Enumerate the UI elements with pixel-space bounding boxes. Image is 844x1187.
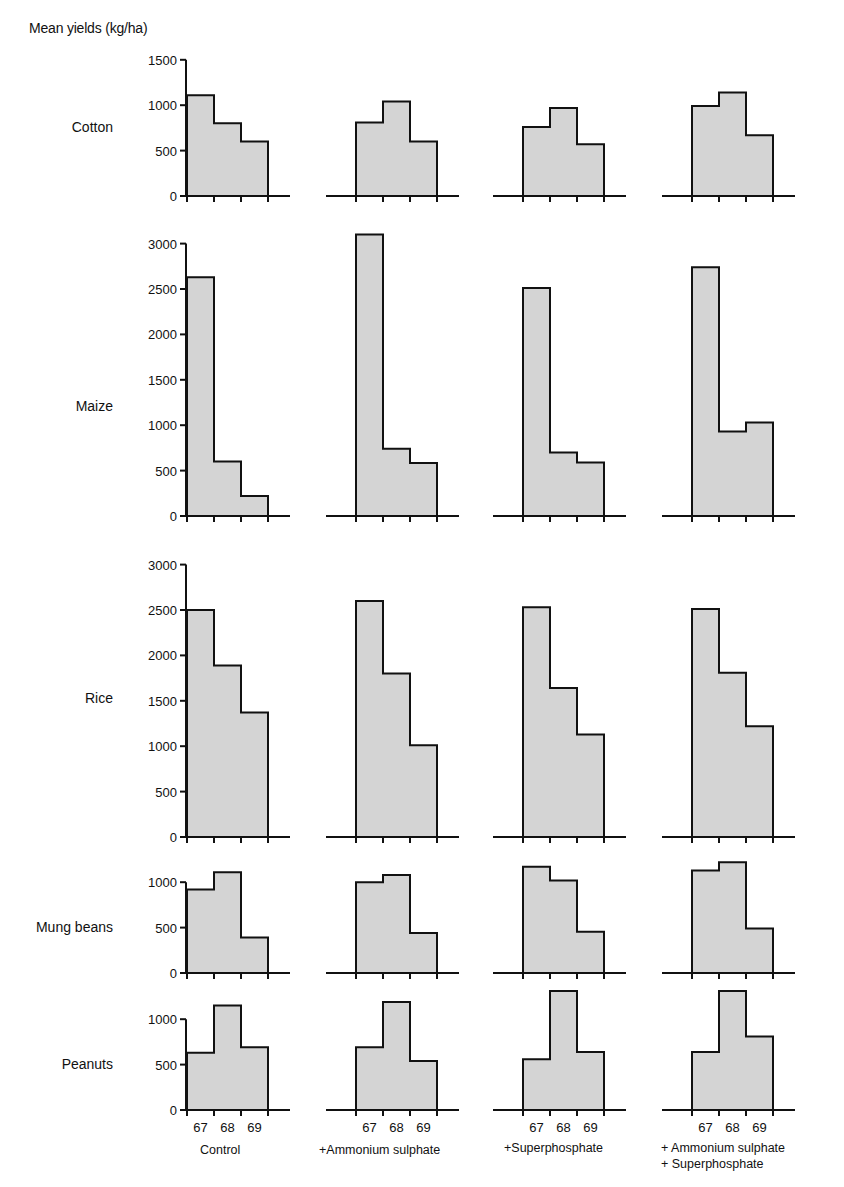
x-tick-label: 69 — [583, 1120, 597, 1135]
histogram-ammonium-sulphate — [326, 601, 459, 843]
x-tick-label: 69 — [752, 1120, 766, 1135]
panel-row-maize: 050010001500200025003000 — [148, 235, 795, 524]
y-tick-label: 0 — [170, 830, 177, 845]
y-tick-label: 3000 — [148, 237, 177, 252]
histogram-ammonium-sulphate: 676869 — [326, 1002, 459, 1135]
y-tick-label: 0 — [170, 189, 177, 204]
plot-area: 0500100015000500100015002000250030000500… — [0, 0, 844, 1187]
x-tick-label: 69 — [247, 1120, 261, 1135]
histogram-control — [187, 872, 290, 979]
y-tick-label: 0 — [170, 509, 177, 524]
histogram-control — [187, 610, 290, 843]
panel-row-mung-beans: 05001000 — [148, 862, 795, 981]
histogram-combined — [662, 267, 795, 522]
y-tick-label: 1000 — [148, 875, 177, 890]
y-tick-label: 500 — [155, 464, 177, 479]
histogram-superphosphate: 676869 — [493, 991, 626, 1135]
histogram-combined — [662, 92, 795, 202]
yield-chart-figure: Mean yields (kg/ha) Cotton Maize Rice Mu… — [0, 0, 844, 1187]
histogram-control: 676869 — [187, 1006, 290, 1135]
y-tick-label: 1500 — [148, 373, 177, 388]
y-tick-label: 2500 — [148, 282, 177, 297]
histogram-combined — [662, 609, 795, 843]
y-tick-label: 1000 — [148, 1012, 177, 1027]
x-tick-label: 67 — [529, 1120, 543, 1135]
y-tick-label: 0 — [170, 1103, 177, 1118]
histogram-combined: 676869 — [662, 991, 795, 1135]
y-tick-label: 1500 — [148, 53, 177, 68]
panel-row-peanuts: 05001000676869676869676869676869 — [148, 991, 795, 1135]
histogram-superphosphate — [493, 607, 626, 843]
histogram-combined — [662, 862, 795, 979]
x-tick-label: 67 — [193, 1120, 207, 1135]
x-tick-label: 68 — [220, 1120, 234, 1135]
histogram-control — [187, 95, 290, 202]
x-tick-label: 68 — [556, 1120, 570, 1135]
histogram-superphosphate — [493, 108, 626, 202]
y-tick-label: 1000 — [148, 739, 177, 754]
treatment-label-control: Control — [200, 1143, 240, 1157]
histogram-ammonium-sulphate — [326, 102, 459, 202]
histogram-control — [187, 277, 290, 522]
y-tick-label: 2000 — [148, 648, 177, 663]
treatment-label-combined-line2: + Superphosphate — [661, 1157, 764, 1171]
y-tick-label: 1000 — [148, 98, 177, 113]
x-tick-label: 67 — [362, 1120, 376, 1135]
y-tick-label: 0 — [170, 966, 177, 981]
treatment-label-superphosphate: +Superphosphate — [504, 1141, 603, 1155]
y-tick-label: 500 — [155, 921, 177, 936]
x-tick-label: 68 — [725, 1120, 739, 1135]
histogram-superphosphate — [493, 288, 626, 522]
x-tick-label: 68 — [389, 1120, 403, 1135]
histogram-ammonium-sulphate — [326, 875, 459, 979]
y-tick-label: 3000 — [148, 558, 177, 573]
y-tick-label: 500 — [155, 785, 177, 800]
treatment-label-ammonium-sulphate: +Ammonium sulphate — [319, 1143, 440, 1157]
panel-row-cotton: 050010001500 — [148, 53, 795, 204]
y-tick-label: 2500 — [148, 603, 177, 618]
treatment-label-combined-line1: + Ammonium sulphate — [661, 1141, 785, 1155]
x-tick-label: 67 — [698, 1120, 712, 1135]
x-tick-label: 69 — [416, 1120, 430, 1135]
y-tick-label: 500 — [155, 144, 177, 159]
y-tick-label: 500 — [155, 1058, 177, 1073]
panel-row-rice: 050010001500200025003000 — [148, 558, 795, 845]
histogram-superphosphate — [493, 867, 626, 979]
histogram-ammonium-sulphate — [326, 235, 459, 522]
y-tick-label: 1500 — [148, 694, 177, 709]
y-tick-label: 2000 — [148, 327, 177, 342]
y-tick-label: 1000 — [148, 418, 177, 433]
